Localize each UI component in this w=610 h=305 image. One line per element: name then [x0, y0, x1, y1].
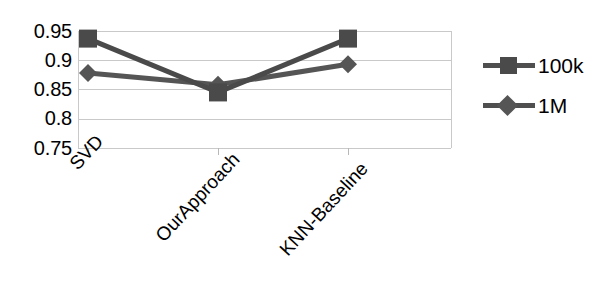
marker-100k-svd — [79, 30, 97, 48]
legend-marker-square-icon — [483, 54, 535, 76]
x-tick-label-knn-baseline: KNN-Baseline — [276, 159, 371, 259]
y-tick-label: 0.85 — [18, 79, 72, 99]
legend-item-100k[interactable]: 100k — [483, 50, 608, 80]
chart-legend: 100k 1M — [483, 50, 608, 130]
x-tick-mark-knn-baseline — [348, 148, 349, 155]
square-marker-icon — [500, 57, 517, 74]
legend-label-1m: 1M — [535, 95, 567, 116]
y-tick-label: 0.75 — [18, 138, 72, 158]
marker-1m-knn-baseline — [339, 55, 357, 73]
x-tick-mark-ourapproach — [218, 148, 219, 155]
gridline-0-75 — [78, 148, 451, 149]
series-svg — [78, 31, 452, 148]
marker-100k-knn-baseline — [339, 30, 357, 48]
legend-label-100k: 100k — [535, 55, 584, 76]
y-tick-label: 0.95 — [18, 21, 72, 41]
marker-1m-svd — [79, 64, 97, 82]
chart-container: 0.95 0.9 0.85 0.8 0.75 — [0, 0, 610, 305]
y-tick-label: 0.9 — [18, 50, 72, 70]
legend-marker-diamond-icon — [483, 94, 535, 116]
plot-area — [78, 31, 452, 148]
marker-100k-ourapproach — [209, 83, 227, 101]
diamond-marker-icon — [497, 95, 518, 116]
y-tick-label: 0.8 — [18, 108, 72, 128]
y-axis-labels: 0.95 0.9 0.85 0.8 0.75 — [18, 0, 72, 305]
x-tick-label-ourapproach: OurApproach — [152, 149, 243, 245]
legend-item-1m[interactable]: 1M — [483, 90, 608, 120]
